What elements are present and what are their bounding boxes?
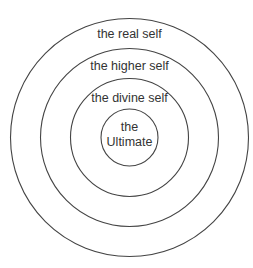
label-real-self: the real self (97, 27, 162, 41)
label-ultimate-line1: the (121, 120, 138, 134)
label-divine-self: the divine self (91, 91, 168, 105)
concentric-self-diagram: the real self the higher self the divine… (0, 0, 253, 268)
label-ultimate-line2: Ultimate (107, 135, 153, 149)
label-higher-self: the higher self (90, 59, 169, 73)
